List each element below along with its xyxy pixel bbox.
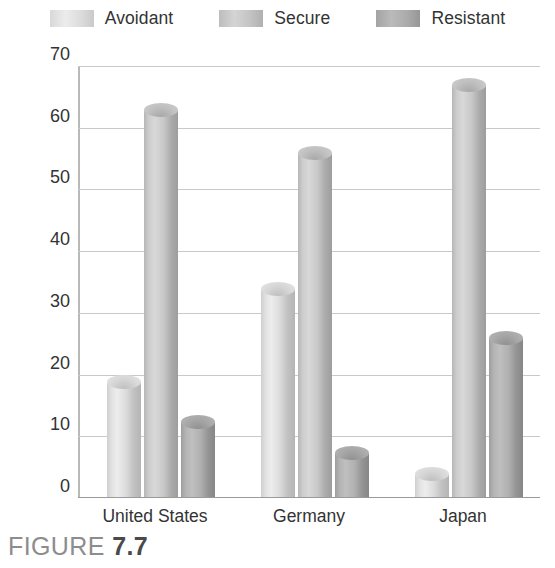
figure-caption-prefix: FIGURE — [8, 532, 112, 560]
y-tick-label-0: 0 — [24, 476, 70, 497]
bar-cap-ellipse — [335, 446, 369, 460]
legend-swatch-avoidant-icon — [50, 10, 94, 27]
legend-label-secure: Secure — [274, 8, 330, 29]
y-tick-label-20: 20 — [24, 353, 70, 374]
bar-body — [144, 110, 178, 498]
bar-body — [107, 382, 141, 498]
bar-resistant-united-states — [181, 415, 215, 498]
legend-item-resistant: Resistant — [376, 8, 505, 29]
gridline-70 — [78, 66, 540, 67]
bar-cap-ellipse — [181, 415, 215, 429]
x-tick-label-united-states: United States — [78, 506, 232, 527]
bar-cap-ellipse — [107, 375, 141, 389]
bar-body — [298, 153, 332, 498]
figure-caption-number: 7.7 — [112, 532, 148, 560]
chart-legend: Avoidant Secure Resistant — [0, 8, 555, 29]
bar-cap-ellipse — [261, 282, 295, 296]
legend-swatch-secure-icon — [219, 10, 263, 27]
y-tick-label-50: 50 — [24, 167, 70, 188]
bar-body — [261, 289, 295, 498]
x-axis-line — [78, 497, 540, 499]
bar-body — [452, 85, 486, 498]
bar-body — [181, 422, 215, 498]
bar-resistant-germany — [335, 446, 369, 498]
y-tick-label-70: 70 — [24, 44, 70, 65]
bar-body — [489, 338, 523, 498]
bar-avoidant-united-states — [107, 375, 141, 498]
bar-avoidant-germany — [261, 282, 295, 498]
bar-secure-germany — [298, 146, 332, 498]
y-tick-label-10: 10 — [24, 414, 70, 435]
bar-avoidant-japan — [415, 467, 449, 498]
legend-label-avoidant: Avoidant — [105, 8, 174, 29]
y-tick-label-60: 60 — [24, 106, 70, 127]
bar-secure-united-states — [144, 103, 178, 498]
bar-resistant-japan — [489, 331, 523, 498]
y-tick-label-30: 30 — [24, 291, 70, 312]
legend-label-resistant: Resistant — [431, 8, 505, 29]
x-tick-label-germany: Germany — [232, 506, 386, 527]
bar-secure-japan — [452, 78, 486, 498]
figure-caption: FIGURE 7.7 — [8, 532, 148, 561]
legend-item-avoidant: Avoidant — [50, 8, 174, 29]
legend-swatch-resistant-icon — [376, 10, 420, 27]
y-axis-line — [78, 66, 80, 498]
bar-cap-ellipse — [144, 103, 178, 117]
chart-plot-area — [78, 66, 540, 498]
legend-item-secure: Secure — [219, 8, 330, 29]
y-tick-label-40: 40 — [24, 229, 70, 250]
x-tick-label-japan: Japan — [386, 506, 540, 527]
